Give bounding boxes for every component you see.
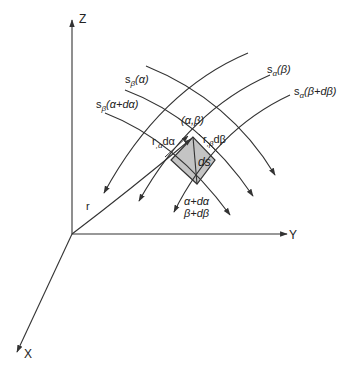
far-corner-label: α+dα β+dβ [184,195,209,219]
far-corner-alpha: α+dα [184,195,209,207]
z-axis-label: Z [79,13,86,25]
diagram-svg [0,0,352,373]
label-s-beta-alpha: sβ(α) [125,74,149,88]
point-label: (α,β) [181,115,204,126]
label-s-alpha-beta: sα(β) [267,64,291,78]
label-s-alpha-beta-dbeta: sα(β+dβ) [294,86,337,100]
position-vector-label: r [86,201,90,212]
edge-alpha-label: r,αdα [152,136,175,150]
x-axis [17,234,72,352]
label-s-beta-alpha-dalpha: sβ(α+dα) [96,99,139,113]
x-axis-label: X [24,348,32,360]
far-corner-beta: β+dβ [184,207,209,219]
area-label: ds [198,156,211,168]
y-axis-label: Y [289,229,297,241]
diagram-canvas: Z Y X r sβ(α) sβ(α+dα) sα(β) sα(β+dβ) (α… [0,0,352,373]
edge-beta-label: r,βdβ [203,134,226,148]
